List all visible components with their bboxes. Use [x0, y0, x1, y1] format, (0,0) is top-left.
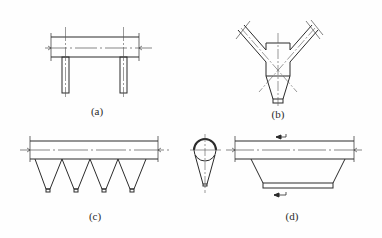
- panel-b-label: (b): [272, 108, 285, 120]
- panel-d-label: (d): [286, 210, 299, 222]
- panel-a-label: (a): [91, 105, 103, 117]
- panel-d-drawing: [190, 134, 364, 197]
- panel-b-drawing: [236, 20, 323, 106]
- panel-c-label: (c): [89, 210, 101, 222]
- diagram-canvas: (a) (b) (c) (d): [0, 0, 382, 238]
- diagram-svg: [0, 0, 382, 238]
- panel-c-drawing: [20, 136, 170, 192]
- panel-a-drawing: [45, 27, 152, 97]
